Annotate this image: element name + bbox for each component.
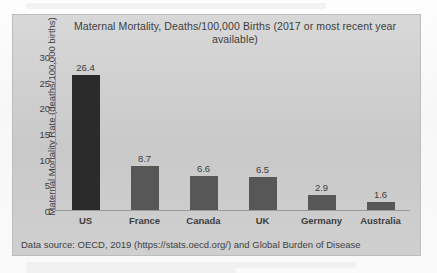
bar-rect[interactable]: [190, 176, 218, 210]
bar-rect[interactable]: [367, 202, 395, 210]
bar-value-label: 1.6: [374, 190, 387, 200]
bar-rect[interactable]: [72, 75, 100, 210]
bar-value-label: 26.4: [76, 63, 95, 73]
x-axis-tick-label: France: [115, 215, 174, 226]
y-axis-tick: 25: [39, 77, 50, 88]
bar-item[interactable]: 8.7: [115, 57, 174, 210]
chart-container: Maternal Mortality, Deaths/100,000 Birth…: [12, 14, 421, 256]
x-axis-line: [55, 210, 410, 211]
y-axis-tick: 10: [39, 154, 50, 165]
y-axis-tick: 20: [39, 103, 50, 114]
x-axis-labels: US France Canada UK Germany Australia: [56, 215, 410, 226]
y-axis-tick: 0: [45, 206, 50, 217]
bar-value-label: 6.6: [197, 164, 210, 174]
bar-value-label: 8.7: [138, 154, 151, 164]
bar-item[interactable]: 6.5: [233, 57, 292, 210]
bar-item[interactable]: 6.6: [174, 57, 233, 210]
bar-value-label: 6.5: [256, 165, 269, 175]
y-axis-tick: 15: [39, 129, 50, 140]
x-axis-tick-label: Canada: [174, 215, 233, 226]
x-axis-tick-label: UK: [233, 215, 292, 226]
chart-title: Maternal Mortality, Deaths/100,000 Birth…: [61, 20, 409, 46]
plot-area: 30 25 20 15 10 5 0 26.4 8.7 6.6 6.5: [55, 57, 410, 211]
bar-item[interactable]: 1.6: [351, 57, 410, 210]
y-axis-tick: 30: [39, 52, 50, 63]
x-axis-tick-label: US: [56, 215, 115, 226]
bar-rect[interactable]: [308, 195, 336, 210]
data-source-note: Data source: OECD, 2019 (https://stats.o…: [21, 239, 361, 250]
x-axis-tick-label: Australia: [351, 215, 410, 226]
bar-item[interactable]: 2.9: [292, 57, 351, 210]
bar-rect[interactable]: [249, 177, 277, 210]
bar-series: 26.4 8.7 6.6 6.5 2.9 1.6: [56, 57, 410, 210]
bar-value-label: 2.9: [315, 183, 328, 193]
bar-item[interactable]: 26.4: [56, 57, 115, 210]
bar-rect[interactable]: [131, 166, 159, 210]
y-axis-tick: 5: [45, 180, 50, 191]
x-axis-tick-label: Germany: [292, 215, 351, 226]
